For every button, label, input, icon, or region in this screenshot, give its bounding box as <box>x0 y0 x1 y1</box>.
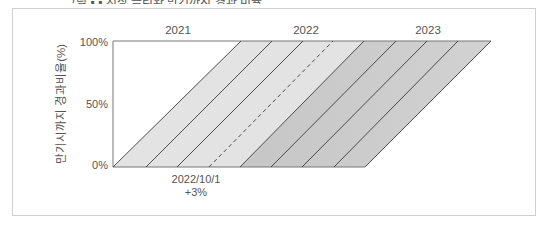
chart-plot: 100% 50% 0% 2021 2022 2023 2022/10/1 +3% <box>0 0 545 230</box>
annotation-date: 2022/10/1 <box>172 173 221 185</box>
year-label-2023: 2023 <box>415 24 441 36</box>
y-tick-50: 50% <box>86 98 108 110</box>
year-label-2021: 2021 <box>165 24 191 36</box>
annotation-rate: +3% <box>185 186 208 198</box>
year-label-2022: 2022 <box>293 24 319 36</box>
y-tick-0: 0% <box>92 159 108 171</box>
y-tick-100: 100% <box>80 36 108 48</box>
